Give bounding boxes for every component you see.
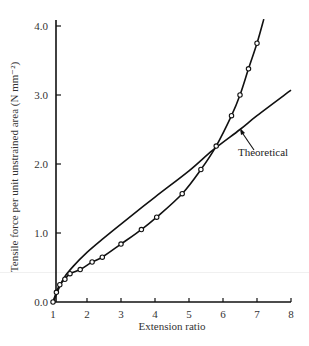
data-point-marker — [199, 167, 203, 171]
theoretical-line — [53, 90, 291, 302]
data-point-marker — [58, 283, 62, 287]
annotation: Theoretical — [238, 128, 288, 158]
y-tick-label: 3.0 — [34, 89, 48, 101]
data-point-marker — [180, 191, 184, 195]
axes — [52, 20, 291, 302]
experimental-curve — [53, 19, 264, 302]
data-point-marker — [63, 277, 67, 281]
data-point-marker — [100, 255, 104, 259]
data-point-marker — [255, 41, 259, 45]
data-point-marker — [90, 260, 94, 264]
x-axis-label: Extension ratio — [139, 320, 206, 332]
x-tick-label: 1 — [50, 308, 56, 320]
arrowhead-icon — [240, 128, 245, 135]
data-point-markers — [51, 41, 259, 304]
data-point-marker — [238, 93, 242, 97]
theoretical-curve — [53, 90, 291, 302]
data-point-marker — [54, 290, 58, 294]
theoretical-label: Theoretical — [238, 146, 288, 158]
data-point-marker — [139, 227, 143, 231]
data-point-marker — [155, 215, 159, 219]
data-point-marker — [51, 300, 55, 304]
data-point-marker — [119, 242, 123, 246]
axis-ticks: 123456780.01.02.03.04.0 — [34, 20, 294, 320]
chart: 123456780.01.02.03.04.0 Theoretical Exte… — [0, 0, 309, 346]
data-point-marker — [68, 272, 72, 276]
y-axis-label: Tensile force per unit unstrained area (… — [8, 61, 21, 272]
data-point-marker — [229, 114, 233, 118]
x-tick-label: 2 — [84, 308, 90, 320]
x-tick-label: 7 — [254, 308, 260, 320]
y-tick-label: 1.0 — [34, 227, 48, 239]
y-tick-label: 0.0 — [34, 296, 48, 308]
x-tick-label: 5 — [186, 308, 192, 320]
data-point-marker — [78, 267, 82, 271]
x-tick-label: 6 — [220, 308, 226, 320]
experimental-line — [53, 19, 264, 302]
x-tick-label: 4 — [152, 308, 158, 320]
x-tick-label: 8 — [288, 308, 294, 320]
data-point-marker — [246, 67, 250, 71]
data-point-marker — [214, 144, 218, 148]
y-tick-label: 4.0 — [34, 20, 48, 32]
y-tick-label: 2.0 — [34, 158, 48, 170]
x-tick-label: 3 — [118, 308, 124, 320]
